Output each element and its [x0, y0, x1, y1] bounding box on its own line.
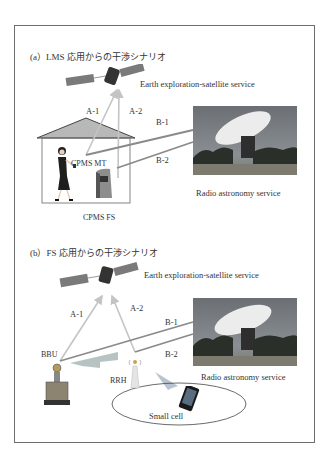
radio-astronomy-label: Radio astronomy service	[196, 189, 281, 198]
small-cell-label: Small cell	[149, 412, 183, 421]
bbu-label: BBU	[41, 351, 57, 359]
path-a1-label-b: A-1	[70, 310, 83, 319]
path-b2-label: B-2	[156, 156, 169, 165]
radio-telescope-photo-b	[193, 298, 297, 366]
earth-exploration-label: Earth exploration-satellite service	[140, 80, 255, 89]
house-roof	[37, 118, 135, 138]
earth-exploration-label-b: Earth exploration-satellite service	[144, 271, 259, 280]
cpms-fs-label: CPMS FS	[83, 214, 115, 222]
path-a2-line	[118, 90, 119, 178]
panel-b-title: (b）FS 応用からの干渉シナリオ	[30, 246, 158, 259]
path-a1-label: A-1	[86, 107, 99, 116]
panel-a-title: (a）LMS 応用からの干渉シナリオ	[30, 50, 166, 63]
cpms-mt-label: CPMS MT	[71, 160, 106, 168]
rrh-label: RRH	[110, 377, 126, 385]
radio-telescope-photo	[193, 106, 297, 175]
kiosk-terminal-icon	[92, 168, 116, 198]
path-a2-label: A-2	[129, 107, 142, 116]
path-b1-label-b: B-1	[165, 318, 178, 327]
path-a2-label-b: A-2	[130, 304, 143, 313]
satellite-icon-b	[58, 262, 144, 294]
path-b2-label-b: B-2	[165, 350, 178, 359]
path-b1-label: B-1	[156, 118, 169, 127]
user-figure-icon	[50, 146, 80, 202]
radio-astronomy-label-b: Radio astronomy service	[201, 373, 286, 382]
wireless-link-icon-2	[155, 372, 178, 390]
satellite-icon	[64, 64, 150, 96]
smartphone-icon	[178, 386, 202, 412]
rrh-antenna-icon	[128, 358, 142, 390]
bbu-unit-icon	[42, 362, 72, 406]
wireless-link-icon	[70, 352, 118, 368]
